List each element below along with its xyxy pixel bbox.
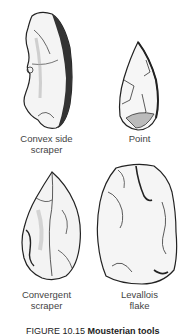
- figure-number: FIGURE 10.15: [26, 326, 85, 334]
- label-line-1: Convex side: [0, 133, 93, 144]
- point-label: Point: [93, 133, 186, 144]
- label-line-2: scraper: [0, 144, 93, 155]
- figure-title: Mousterian tools: [88, 326, 160, 334]
- levallois-flake-label: Levallois flake: [93, 289, 186, 311]
- convergent-scraper-illustration: [18, 170, 84, 282]
- convex-side-scraper-illustration: [18, 8, 74, 130]
- label-line-1: Convergent: [0, 289, 93, 300]
- convergent-scraper-label: Convergent scraper: [0, 289, 93, 311]
- label-line-1: Point: [93, 133, 186, 144]
- label-line-2: flake: [93, 300, 186, 311]
- label-line-1: Levallois: [93, 289, 186, 300]
- figure-caption: FIGURE 10.15 Mousterian tools: [26, 326, 160, 334]
- point-illustration: [116, 40, 162, 132]
- label-line-2: scraper: [0, 300, 93, 311]
- levallois-flake-illustration: [96, 162, 182, 286]
- convex-side-scraper-label: Convex side scraper: [0, 133, 93, 155]
